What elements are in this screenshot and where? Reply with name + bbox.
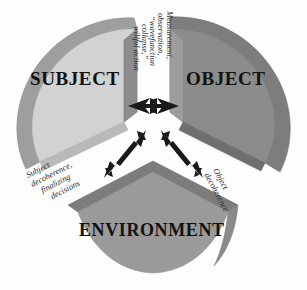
wedge-object[interactable]: OBJECT <box>170 17 290 172</box>
annotation-measurement: Measurement, observation, “wavefunction … <box>132 10 175 71</box>
annotation-measurement-line-5: willful action <box>132 26 142 71</box>
wedge-subject[interactable]: SUBJECT <box>17 18 137 170</box>
wedge-subject-label: SUBJECT <box>30 68 120 89</box>
arrow-shaft-dl <box>116 141 138 166</box>
triad-diagram: SUBJECT OBJECT ENVIRONMENT <box>0 0 307 290</box>
arrow-shaft-horizontal <box>143 104 164 108</box>
arrow-shaft-dr <box>169 141 191 166</box>
wedge-object-label: OBJECT <box>186 68 266 89</box>
wedge-environment-label: ENVIRONMENT <box>79 220 225 240</box>
diagram-canvas: SUBJECT OBJECT ENVIRONMENT <box>0 0 307 290</box>
